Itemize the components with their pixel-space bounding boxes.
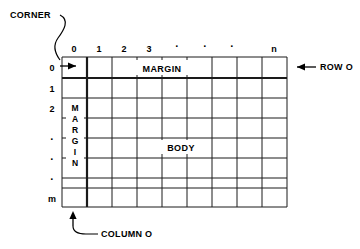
column-header-3: 3 xyxy=(146,44,151,54)
margin-letter-m: M xyxy=(71,103,78,113)
row-header-dot-2: · xyxy=(50,153,54,165)
row-header-dot-1: · xyxy=(50,133,54,145)
background xyxy=(0,0,360,249)
margin-left-label: M A R G I N xyxy=(71,103,78,168)
row-zero-label: ROW O xyxy=(320,62,353,72)
column-header-2: 2 xyxy=(121,44,126,54)
margin-letter-i: I xyxy=(74,147,76,157)
row-header-dot-3: · xyxy=(50,173,54,185)
column-header-dot-3: · xyxy=(230,40,234,52)
row-header-2: 2 xyxy=(49,104,54,114)
margin-letter-r: R xyxy=(72,125,78,135)
column-header-dot-1: · xyxy=(175,40,179,52)
margin-letter-a: A xyxy=(72,114,78,124)
column-header-1: 1 xyxy=(96,44,101,54)
column-header-n: n xyxy=(271,44,277,54)
row-header-0: 0 xyxy=(49,63,54,73)
margin-letter-n: N xyxy=(72,158,78,168)
corner-label: CORNER xyxy=(10,10,51,20)
grid-diagram-svg: 0 1 2 3 · · · n 0 1 2 · · · m MARGIN BOD… xyxy=(0,0,360,249)
column-header-dot-2: · xyxy=(203,40,207,52)
body-label: BODY xyxy=(167,143,195,153)
column-header-0: 0 xyxy=(71,44,76,54)
row-header-m: m xyxy=(48,194,56,204)
row-header-1: 1 xyxy=(49,84,54,94)
column-zero-label: COLUMN O xyxy=(101,229,152,239)
margin-letter-g: G xyxy=(72,136,79,146)
margin-top-label: MARGIN xyxy=(143,64,182,74)
figure-canvas: 0 1 2 3 · · · n 0 1 2 · · · m MARGIN BOD… xyxy=(0,0,360,249)
